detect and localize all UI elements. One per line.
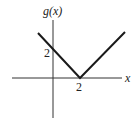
graph-of-g: g(x) x 2 2 xyxy=(0,0,139,123)
x-axis-label: x xyxy=(124,71,131,85)
graph-canvas: g(x) x 2 2 xyxy=(0,0,139,123)
x-tick-label: 2 xyxy=(76,80,82,94)
g-graph-line xyxy=(38,32,125,78)
y-axis-label: g(x) xyxy=(43,4,62,18)
y-tick-label: 2 xyxy=(44,46,50,60)
